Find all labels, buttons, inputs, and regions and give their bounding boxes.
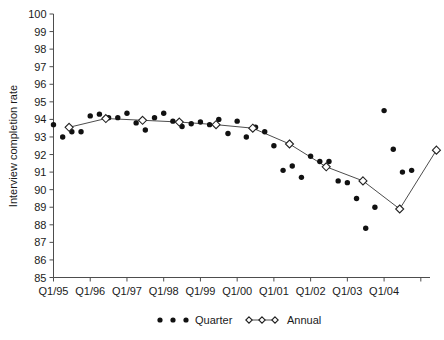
x-tick-label: Q1/03 (332, 285, 362, 297)
annual-data-point (359, 177, 367, 185)
quarter-data-point (51, 122, 56, 127)
y-axis-title: Interview completion rate (7, 85, 19, 207)
x-tick-label: Q1/95 (39, 285, 69, 297)
legend-item-annual: Annual (246, 314, 321, 326)
quarter-data-point (372, 205, 377, 210)
quarter-data-point (234, 118, 239, 123)
legend-marker-annual-diamond-2 (259, 317, 265, 323)
quarter-data-point (317, 159, 322, 164)
quarter-data-point (354, 196, 359, 201)
y-tick-label: 96 (34, 78, 46, 90)
quarter-data-point (262, 129, 267, 134)
x-tick-label: Q1/02 (296, 285, 326, 297)
quarter-data-point (170, 118, 175, 123)
legend-label-annual: Annual (287, 314, 321, 326)
chart-legend: Quarter Annual (157, 314, 321, 326)
quarter-data-point (78, 129, 83, 134)
y-tick-label: 91 (34, 166, 46, 178)
y-tick-label: 97 (34, 61, 46, 73)
annual-data-point (432, 146, 440, 154)
quarter-data-point (97, 111, 102, 116)
x-axis-ticks: Q1/95Q1/96Q1/97Q1/98Q1/99Q1/00Q1/01Q1/02… (39, 278, 421, 297)
y-tick-label: 87 (34, 236, 46, 248)
quarter-data-point (152, 115, 157, 120)
quarter-data-point (345, 180, 350, 185)
quarter-data-point (271, 143, 276, 148)
quarter-data-point (335, 178, 340, 183)
x-tick-label: Q1/96 (75, 285, 105, 297)
x-tick-label: Q1/04 (369, 285, 399, 297)
quarter-data-point (189, 121, 194, 126)
quarter-data-point (409, 168, 414, 173)
y-tick-label: 99 (34, 26, 46, 38)
y-tick-label: 86 (34, 254, 46, 266)
quarter-data-point (225, 131, 230, 136)
quarter-data-point (308, 154, 313, 159)
quarter-data-point (391, 147, 396, 152)
quarter-data-point (400, 169, 405, 174)
x-tick-label: Q1/01 (259, 285, 289, 297)
quarter-data-point (60, 134, 65, 139)
quarter-data-point (133, 120, 138, 125)
x-tick-label: Q1/98 (149, 285, 179, 297)
annual-data-point (396, 205, 404, 213)
y-tick-label: 100 (28, 8, 46, 20)
legend-marker-quarter-dot-3 (183, 317, 188, 322)
quarter-data-point (363, 226, 368, 231)
quarter-data-point (280, 168, 285, 173)
legend-marker-quarter-dot-2 (170, 317, 175, 322)
legend-marker-annual-diamond-1 (246, 317, 252, 323)
chart-container: Interview completion rate 85868788899091… (0, 0, 444, 340)
y-tick-label: 88 (34, 219, 46, 231)
legend-item-quarter: Quarter (157, 314, 232, 326)
y-axis-ticks: 858687888990919293949596979899100 (28, 8, 53, 284)
legend-marker-annual-diamond-3 (272, 317, 278, 323)
y-tick-label: 95 (34, 96, 46, 108)
quarter-data-point (143, 127, 148, 132)
annual-data-point (286, 140, 294, 148)
quarter-data-point (381, 108, 386, 113)
annual-series-markers (65, 115, 440, 213)
y-tick-label: 92 (34, 149, 46, 161)
quarter-data-point (124, 111, 129, 116)
y-tick-label: 89 (34, 201, 46, 213)
legend-marker-quarter-dot-1 (157, 317, 162, 322)
y-tick-label: 98 (34, 43, 46, 55)
x-tick-label: Q1/97 (112, 285, 142, 297)
y-tick-label: 85 (34, 272, 46, 284)
quarter-data-point (198, 119, 203, 124)
y-tick-label: 90 (34, 184, 46, 196)
quarter-data-point (244, 134, 249, 139)
interview-completion-rate-chart: Interview completion rate 85868788899091… (0, 0, 444, 340)
legend-label-quarter: Quarter (195, 314, 233, 326)
quarter-data-point (161, 111, 166, 116)
quarter-data-point (88, 113, 93, 118)
y-tick-label: 94 (34, 113, 46, 125)
x-tick-label: Q1/99 (185, 285, 215, 297)
x-tick-label: Q1/00 (222, 285, 252, 297)
quarter-data-point (115, 115, 120, 120)
quarter-data-point (290, 163, 295, 168)
quarter-data-point (299, 175, 304, 180)
y-tick-label: 93 (34, 131, 46, 143)
annual-data-point (139, 116, 147, 124)
